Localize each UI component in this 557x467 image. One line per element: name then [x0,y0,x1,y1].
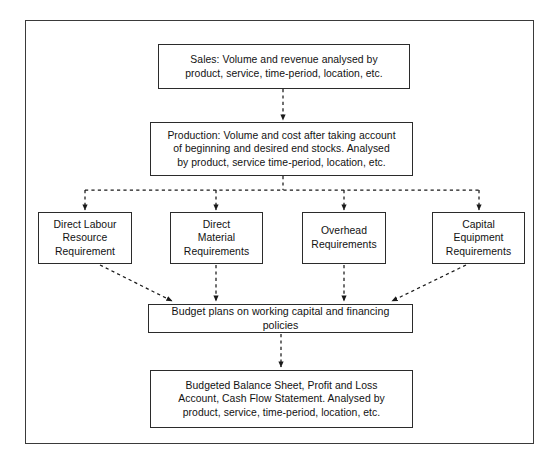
node-statements-line-1: Budgeted Balance Sheet, Profit and Loss [157,379,406,393]
node-material-line-3: Requirements [177,245,256,259]
diagram-canvas: Sales: Volume and revenue analysed by pr… [0,0,557,467]
node-budget-line-1: Budget plans on working capital and fina… [155,305,406,332]
node-direct-labour-resource-requirement: Direct Labour Resource Requirement [38,212,132,264]
node-overhead-requirements: Overhead Requirements [302,212,386,264]
node-direct-material-requirements: Direct Material Requirements [170,212,263,264]
node-sales-line-1: Sales: Volume and revenue analysed by [165,53,403,67]
node-capital-equipment-requirements: Capital Equipment Requirements [432,212,525,264]
node-production-line-3: by product, service time-period, locatio… [157,156,406,170]
node-sales: Sales: Volume and revenue analysed by pr… [158,44,410,89]
node-labour-line-2: Resource [45,231,125,245]
node-production-line-2: of beginning and desired end stocks. Ana… [157,142,406,156]
node-capital-line-3: Requirements [439,245,518,259]
node-sales-line-2: product, service, time-period, location,… [165,67,403,81]
node-statements-line-3: product, service, time-period, location,… [157,406,406,420]
node-production: Production: Volume and cost after taking… [150,122,413,176]
node-labour-line-3: Requirement [45,245,125,259]
node-capital-line-1: Capital [439,218,518,232]
node-overhead-line-2: Requirements [309,238,379,252]
node-material-line-2: Material [177,231,256,245]
node-capital-line-2: Equipment [439,231,518,245]
node-overhead-line-1: Overhead [309,224,379,238]
node-budgeted-financial-statements: Budgeted Balance Sheet, Profit and Loss … [150,370,413,428]
node-material-line-1: Direct [177,218,256,232]
node-labour-line-1: Direct Labour [45,218,125,232]
node-production-line-1: Production: Volume and cost after taking… [157,129,406,143]
node-budget-plans: Budget plans on working capital and fina… [148,304,413,333]
node-statements-line-2: Account, Cash Flow Statement. Analysed b… [157,392,406,406]
